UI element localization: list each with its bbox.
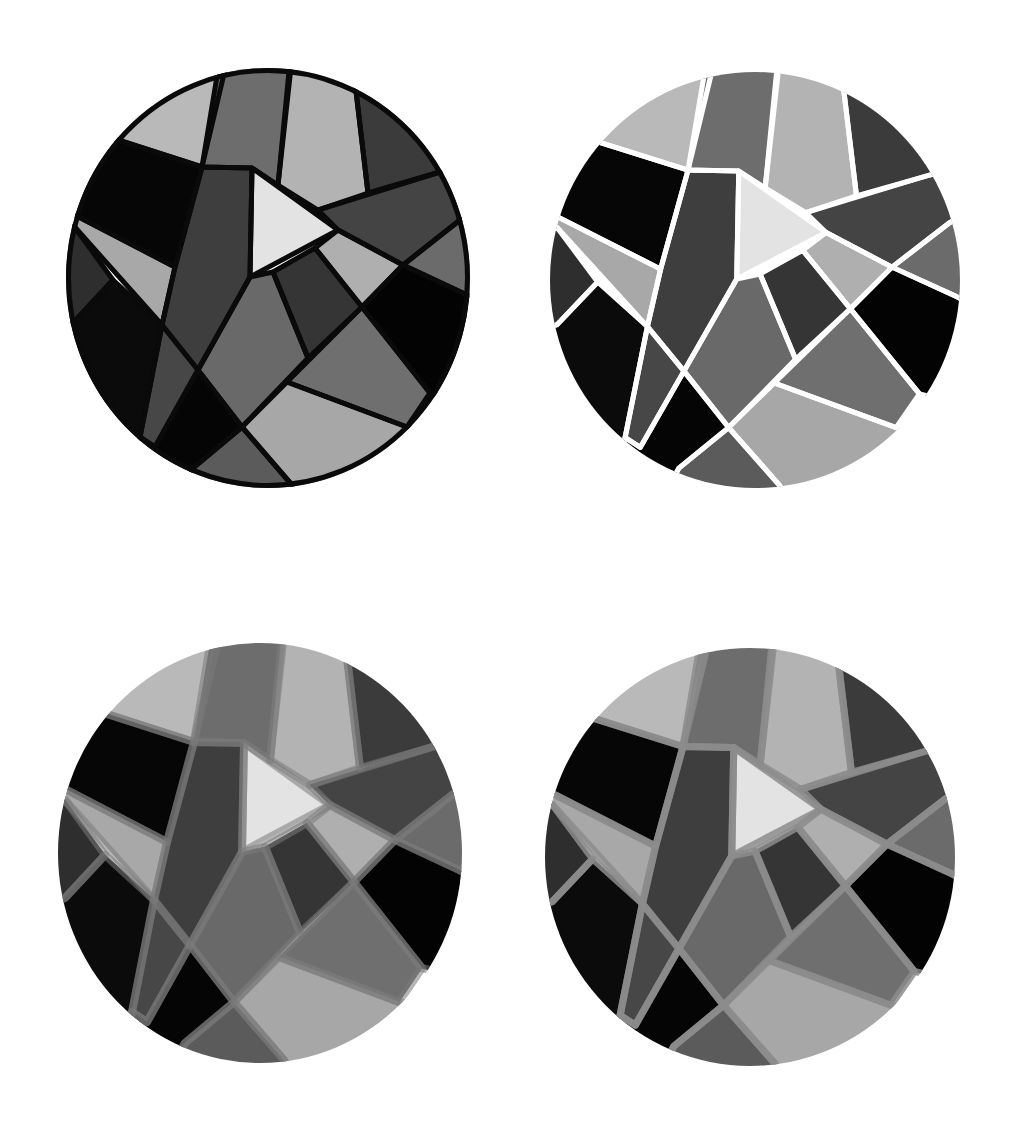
mosaic-piece-lower-left-black — [40, 280, 162, 520]
mosaic-piece-lower-left-black — [524, 282, 648, 520]
mosaic-piece-lower-left-black — [519, 859, 643, 1098]
mosaic-circle — [550, 72, 960, 488]
mosaic-piece-top-light-strip — [270, 615, 360, 785]
white-separator-variant — [550, 72, 960, 488]
mosaic-piece-top-right-dark — [833, 620, 985, 772]
mosaic-pieces — [32, 615, 492, 1095]
black-outline-variant — [66, 68, 470, 488]
mosaic-circle — [66, 68, 470, 488]
mosaic-piece-top-light-strip — [278, 40, 368, 210]
soft-gray-inset-variant — [58, 643, 462, 1063]
mosaic-piece-top-light-strip — [760, 620, 851, 789]
mosaic-pieces — [519, 620, 986, 1098]
gray-border-variant — [545, 648, 955, 1066]
mosaic-pieces — [40, 40, 500, 520]
mosaic-circle — [545, 648, 955, 1066]
mosaic-piece-top-right-dark — [342, 615, 492, 768]
mosaic-circle — [58, 643, 462, 1063]
mosaic-piece-top-right-dark — [350, 40, 500, 193]
mosaic-piece-top-right-dark — [838, 44, 990, 196]
mosaic-piece-top-light-strip — [765, 44, 856, 212]
mosaic-pieces — [524, 44, 991, 519]
